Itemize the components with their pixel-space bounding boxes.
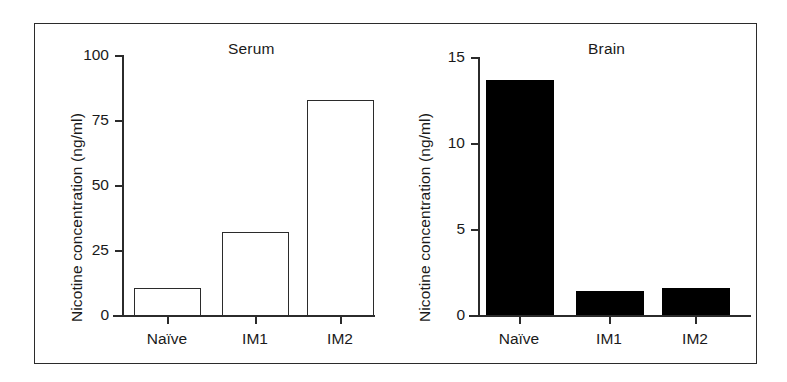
brain-chart-title: Brain [588,40,625,58]
panel-serum: Serum Nicotine concentration (ng/ml) 100… [0,0,400,382]
serum-x-tick-label-naive: Naïve [117,330,217,348]
serum-x-tick-label-im2: IM2 [290,330,390,348]
brain-y-tick-label-15: 15 [420,48,465,66]
brain-x-tick-im2 [695,316,697,324]
serum-bar-im1[interactable] [222,232,289,315]
brain-y-tick-label-5: 5 [420,220,465,238]
brain-x-tick-naive [519,316,521,324]
serum-x-tick-im1 [255,316,257,324]
brain-y-axis-line [478,57,480,316]
serum-bar-im2[interactable] [307,100,374,315]
serum-y-axis-title: Nicotine concentration (ng/ml) [68,113,86,322]
serum-chart-title: Serum [228,40,275,58]
brain-y-tick-label-0: 0 [420,306,465,324]
serum-y-tick-label-0: 0 [62,306,109,324]
serum-y-tick-label-100: 100 [62,46,109,64]
serum-bar-naive[interactable] [134,288,201,315]
panel-brain: Brain Nicotine concentration (ng/ml) 15 … [380,0,787,382]
serum-y-tick-25 [115,250,122,252]
brain-x-tick-im1 [609,316,611,324]
serum-y-tick-label-25: 25 [62,241,109,259]
figure-container: Serum Nicotine concentration (ng/ml) 100… [0,0,787,382]
brain-y-tick-5 [471,229,478,231]
serum-y-tick-100 [115,55,122,57]
serum-x-axis-line [113,315,375,317]
serum-y-tick-label-75: 75 [62,111,109,129]
serum-y-tick-label-50: 50 [62,176,109,194]
brain-bar-im2[interactable] [662,288,730,315]
serum-y-tick-75 [115,120,122,122]
brain-y-tick-10 [471,143,478,145]
brain-y-tick-15 [471,57,478,59]
brain-x-tick-label-naive: Naïve [469,330,569,348]
serum-y-tick-50 [115,185,122,187]
brain-x-tick-label-im1: IM1 [559,330,659,348]
serum-x-tick-naive [167,316,169,324]
brain-bar-im1[interactable] [576,291,644,315]
brain-bar-naive[interactable] [486,80,554,315]
serum-y-axis-line [122,55,124,316]
serum-x-tick-im2 [340,316,342,324]
brain-y-tick-label-10: 10 [420,134,465,152]
brain-x-tick-label-im2: IM2 [645,330,745,348]
